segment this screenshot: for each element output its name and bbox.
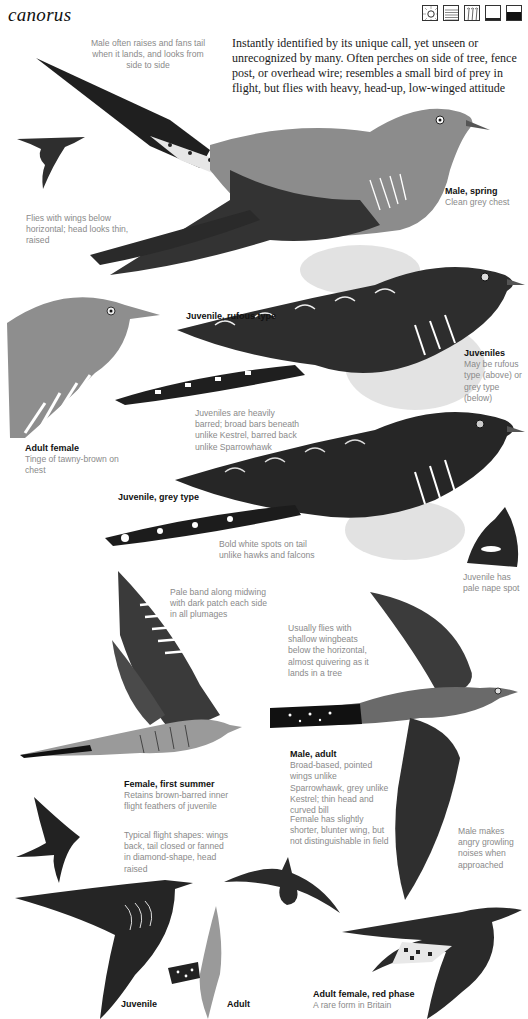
- water-lines-icon: [443, 5, 459, 21]
- red-phase-text: A rare form in Britain: [313, 1000, 433, 1011]
- male-spring-illustration: [30, 50, 500, 290]
- juvenile-rufous-title: Juvenile, rufous type: [186, 311, 276, 322]
- juveniles-text: May be rufous type (above) or grey type …: [464, 359, 528, 404]
- usually-flies-note: Usually flies with shallow wingbeats bel…: [288, 623, 378, 679]
- ground-low-icon: [485, 5, 501, 21]
- nape-spot-note: Juvenile has pale nape spot: [463, 572, 528, 594]
- adult-female-text: Tinge of tawny-brown on chest: [25, 454, 125, 476]
- species-name: canorus: [8, 4, 71, 26]
- red-phase-caption: Adult female, red phase A rare form in B…: [313, 989, 433, 1011]
- juvenile-flight-title: Juvenile: [121, 999, 157, 1010]
- typical-flight-note: Typical flight shapes: wings back, tail …: [124, 830, 229, 875]
- typical-flight-silhouette-center: [222, 855, 342, 920]
- growling-note: Male makes angry growling noises when ap…: [458, 826, 526, 871]
- adult-female-title: Adult female: [25, 443, 125, 454]
- red-phase-title: Adult female, red phase: [313, 989, 433, 1000]
- juveniles-caption: Juveniles May be rufous type (above) or …: [464, 348, 528, 404]
- male-adult-caption: Male, adult Broad-based, pointed wings u…: [290, 749, 390, 816]
- adult-female-caption: Adult female Tinge of tawny-brown on che…: [25, 443, 125, 477]
- male-spring-text: Clean grey chest: [445, 197, 528, 208]
- male-spring-title: Male, spring: [445, 186, 528, 197]
- nape-spot-illustration: [465, 505, 520, 570]
- juveniles-title: Juveniles: [464, 348, 528, 359]
- flight-silhouette-small: [15, 135, 95, 195]
- adult-flight-illustration: [168, 904, 233, 1019]
- male-adult-title: Male, adult: [290, 749, 390, 760]
- female-first-summer-title: Female, first summer: [124, 779, 234, 790]
- sun-icon: [422, 5, 438, 21]
- tail-fan-note: Male often raises and fans tail when it …: [88, 38, 208, 72]
- female-shorter-note: Female has slightly shorter, blunter win…: [290, 814, 390, 848]
- white-spots-tail-note: Bold white spots on tail unlike hawks an…: [219, 539, 319, 561]
- juveniles-barred-note: Juveniles are heavily barred; broad bars…: [195, 408, 300, 453]
- pale-band-note: Pale band along midwing with dark patch …: [170, 587, 270, 621]
- male-spring-caption: Male, spring Clean grey chest: [445, 186, 528, 208]
- typical-flight-silhouette-left: [14, 795, 84, 885]
- adult-flight-title: Adult: [227, 999, 250, 1010]
- ground-dark-icon: [506, 5, 522, 21]
- reeds-icon: [464, 5, 480, 21]
- habitat-icons: [422, 5, 522, 21]
- female-first-summer-text: Retains brown-barred inner flight feathe…: [124, 790, 234, 812]
- flight-wings-below-note: Flies with wings below horizontal; head …: [26, 213, 136, 247]
- juvenile-grey-illustration: [105, 400, 525, 550]
- female-first-summer-caption: Female, first summer Retains brown-barre…: [124, 779, 234, 813]
- juvenile-grey-title: Juvenile, grey type: [118, 492, 199, 503]
- male-adult-text: Broad-based, pointed wings unlike Sparro…: [290, 760, 390, 816]
